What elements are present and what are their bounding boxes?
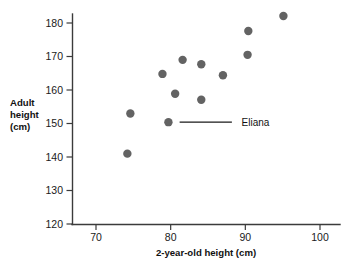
y-axis-title-line-2: height [10,109,40,120]
y-axis-ticks: 120130140150160170180 [45,17,72,230]
annotation-label: Eliana [242,117,270,128]
data-point [243,51,251,59]
data-point [178,56,186,64]
y-tick-label: 140 [45,151,63,163]
data-point [279,12,287,20]
x-tick-label: 70 [90,231,102,243]
y-axis-title-line-1: Adult [10,97,35,108]
x-tick-label: 80 [165,231,177,243]
plot-canvas: 120130140150160170180 708090100 Eliana 2… [0,0,347,272]
y-tick-label: 150 [45,117,63,129]
y-tick-label: 160 [45,84,63,96]
x-axis-ticks: 708090100 [90,225,329,244]
annotations-layer: Eliana [180,117,270,128]
data-point [123,149,131,157]
scatter-plot-figure: 120130140150160170180 708090100 Eliana 2… [0,0,347,272]
x-tick-label: 90 [239,231,251,243]
data-point [126,109,134,117]
data-points-layer [123,12,287,158]
y-tick-label: 130 [45,184,63,196]
data-point [219,71,227,79]
data-point [197,60,205,68]
data-point-eliana [164,118,172,126]
x-axis-title: 2-year-old height (cm) [156,247,256,258]
data-point [244,27,252,35]
data-point [197,96,205,104]
y-tick-label: 180 [45,17,63,29]
data-point [171,89,179,97]
x-tick-label: 100 [311,231,329,243]
y-tick-label: 120 [45,218,63,230]
y-tick-label: 170 [45,50,63,62]
data-point [158,70,166,78]
y-axis-title-line-3: (cm) [10,121,30,132]
